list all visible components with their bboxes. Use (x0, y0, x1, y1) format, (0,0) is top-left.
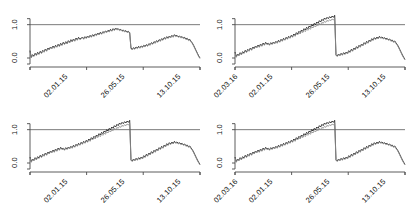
x-axis-spine (235, 172, 405, 175)
y-tick-label: 0.0 (10, 153, 19, 173)
y-axis-spine (27, 19, 30, 64)
x-axis-spine (235, 67, 405, 70)
data-line-series-gray (30, 29, 200, 59)
chart-panel-top-right: 0.01.002.01.1526.05.1513.10.1502.03.16 (205, 0, 410, 105)
chart-panel-bottom-left: 0.01.002.01.1526.05.1513.10.1502.03.16 (0, 105, 205, 210)
y-axis-spine (232, 124, 235, 169)
y-tick-label: 1.0 (10, 119, 19, 139)
panel-grid: 0.01.002.01.1526.05.1513.10.1502.03.160.… (0, 0, 410, 210)
y-tick-label: 0.0 (10, 48, 19, 68)
y-tick-label: 1.0 (215, 119, 224, 139)
y-tick-label: 1.0 (215, 14, 224, 34)
y-tick-label: 1.0 (10, 14, 19, 34)
x-axis-spine (30, 67, 200, 70)
y-tick-label: 0.0 (215, 48, 224, 68)
x-axis-spine (30, 172, 200, 175)
y-tick-label: 0.0 (215, 153, 224, 173)
data-line-series-black (30, 28, 200, 58)
y-axis-spine (27, 124, 30, 169)
chart-panel-bottom-right: 0.01.002.01.1526.05.1513.10.1502.03.16 (205, 105, 410, 210)
chart-panel-top-left: 0.01.002.01.1526.05.1513.10.1502.03.16 (0, 0, 205, 105)
y-axis-spine (232, 19, 235, 64)
